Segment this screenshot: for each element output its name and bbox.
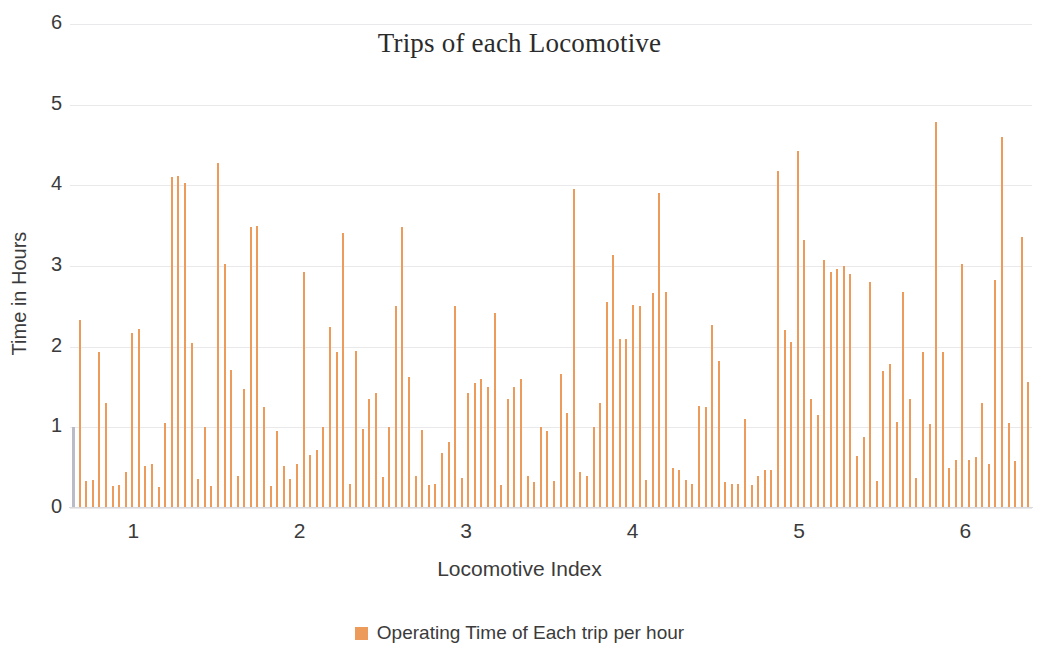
y-tick-label: 6 bbox=[16, 11, 62, 34]
y-tick-label: 3 bbox=[16, 253, 62, 276]
bar bbox=[560, 374, 562, 508]
bar bbox=[467, 393, 469, 508]
bar bbox=[230, 370, 232, 508]
bar bbox=[863, 437, 865, 508]
bar bbox=[994, 280, 996, 508]
bar bbox=[988, 464, 990, 508]
bar bbox=[98, 352, 100, 508]
bar bbox=[494, 313, 496, 508]
bar bbox=[553, 481, 555, 508]
bar bbox=[955, 460, 957, 508]
gridline bbox=[70, 105, 1032, 106]
bar bbox=[823, 260, 825, 508]
bar bbox=[336, 352, 338, 508]
bar bbox=[731, 484, 733, 508]
bar bbox=[184, 183, 186, 508]
bar bbox=[368, 399, 370, 508]
plot-area bbox=[70, 24, 1032, 508]
bar bbox=[276, 431, 278, 508]
bar bbox=[1001, 137, 1003, 508]
bar bbox=[922, 352, 924, 508]
bar bbox=[770, 470, 772, 508]
bar bbox=[434, 484, 436, 508]
legend-swatch-icon bbox=[355, 627, 368, 640]
bar bbox=[777, 171, 779, 508]
bar bbox=[151, 464, 153, 508]
bar bbox=[797, 151, 799, 508]
bar bbox=[566, 413, 568, 508]
bar bbox=[513, 387, 515, 508]
bar bbox=[961, 264, 963, 508]
gridline bbox=[70, 508, 1032, 509]
x-tick-label: 4 bbox=[603, 519, 663, 543]
x-tick-label: 2 bbox=[270, 519, 330, 543]
bar bbox=[454, 306, 456, 508]
bar bbox=[711, 325, 713, 508]
bar bbox=[546, 431, 548, 508]
bar bbox=[375, 393, 377, 508]
bar bbox=[929, 424, 931, 508]
bar bbox=[158, 487, 160, 508]
bar bbox=[698, 406, 700, 508]
bar bbox=[784, 330, 786, 508]
bar bbox=[243, 389, 245, 508]
bar bbox=[981, 403, 983, 508]
bar bbox=[909, 399, 911, 508]
bar bbox=[520, 379, 522, 508]
bar bbox=[1027, 382, 1029, 508]
bar bbox=[197, 479, 199, 508]
bar bbox=[263, 407, 265, 508]
x-tick-label: 3 bbox=[436, 519, 496, 543]
bar bbox=[204, 427, 206, 508]
bar bbox=[810, 399, 812, 508]
bar bbox=[388, 427, 390, 508]
y-tick-label: 0 bbox=[16, 495, 62, 518]
bar bbox=[322, 427, 324, 508]
bar bbox=[744, 419, 746, 508]
bar bbox=[283, 466, 285, 508]
bar bbox=[118, 485, 120, 508]
x-tick-label: 5 bbox=[769, 519, 829, 543]
chart-container: Trips of each Locomotive Time in Hours 0… bbox=[0, 0, 1039, 672]
bar bbox=[915, 478, 917, 508]
y-tick-label: 4 bbox=[16, 172, 62, 195]
y-tick-label: 1 bbox=[16, 414, 62, 437]
bar bbox=[441, 453, 443, 508]
bar bbox=[138, 329, 140, 508]
bar bbox=[131, 333, 133, 508]
x-axis-title: Locomotive Index bbox=[0, 557, 1039, 581]
bar bbox=[421, 430, 423, 508]
bar bbox=[718, 361, 720, 508]
bar bbox=[889, 364, 891, 508]
bar bbox=[737, 484, 739, 508]
bar bbox=[316, 450, 318, 508]
bar bbox=[672, 468, 674, 508]
bar bbox=[645, 480, 647, 508]
bar bbox=[593, 427, 595, 508]
bar bbox=[724, 482, 726, 508]
bar bbox=[869, 282, 871, 508]
bar bbox=[401, 227, 403, 508]
bar bbox=[665, 292, 667, 508]
bar bbox=[968, 460, 970, 508]
bar bbox=[678, 470, 680, 508]
bar bbox=[882, 371, 884, 508]
bar bbox=[79, 320, 81, 508]
bar bbox=[790, 342, 792, 508]
bar bbox=[349, 484, 351, 508]
bar bbox=[415, 476, 417, 508]
bar bbox=[105, 403, 107, 508]
bar bbox=[836, 269, 838, 508]
bar bbox=[224, 264, 226, 508]
bar bbox=[303, 272, 305, 508]
bar bbox=[448, 442, 450, 508]
bar bbox=[691, 484, 693, 508]
bar bbox=[527, 476, 529, 508]
bar bbox=[487, 387, 489, 508]
bar bbox=[144, 466, 146, 508]
bar bbox=[803, 240, 805, 508]
x-axis-line bbox=[69, 507, 1033, 508]
bar bbox=[849, 274, 851, 508]
gridline bbox=[70, 24, 1032, 25]
bar bbox=[329, 327, 331, 509]
